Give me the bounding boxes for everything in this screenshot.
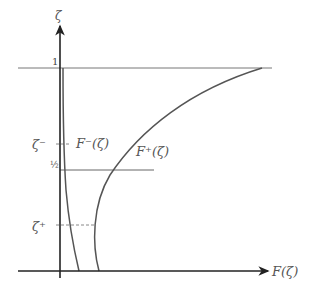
- f-minus-label: F⁻(ζ): [75, 136, 109, 151]
- f-plus-label: F⁺(ζ): [135, 144, 169, 159]
- y-axis-label: ζ: [55, 9, 63, 23]
- level-label-one: 1: [52, 56, 58, 67]
- level-label-half: ½: [50, 160, 59, 170]
- zeta-minus-label: ζ⁻: [32, 137, 46, 152]
- zeta-plus-label: ζ⁺: [32, 219, 46, 234]
- x-axis-label: F(ζ): [271, 264, 298, 279]
- diagram-canvas: ζ F(ζ) 1 ½ ζ⁻ ζ⁺ F⁻(ζ) F⁺(ζ): [0, 0, 311, 293]
